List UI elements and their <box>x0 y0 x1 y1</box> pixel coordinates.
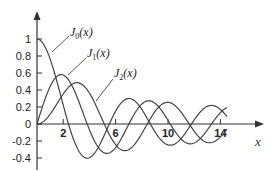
y-axis-arrow-icon <box>34 11 41 20</box>
y-tick-label: 0.2 <box>16 101 31 113</box>
y-tick-label: -0.4 <box>12 152 31 164</box>
x-tick-label: 6 <box>113 127 119 139</box>
x-tick-label: 2 <box>60 127 66 139</box>
y-tick-label: -0.2 <box>12 135 31 147</box>
x-axis-label: x <box>254 134 261 149</box>
label-j2: J2(x) <box>114 66 137 82</box>
label-j1: J1(x) <box>87 46 110 62</box>
y-tick-label: 1 <box>25 33 31 45</box>
function-labels: J0(x)J1(x)J2(x) <box>52 25 137 101</box>
x-tick-label: 10 <box>162 127 174 139</box>
y-tick-label: 0.8 <box>16 50 31 62</box>
y-tick-label: 0.4 <box>16 84 31 96</box>
curves <box>37 39 227 158</box>
leader-line-j2 <box>96 79 113 101</box>
leader-line-j0 <box>52 36 69 52</box>
bessel-chart: 10.80.60.40.20-0.2-0.4 261014 J0(x)J1(x)… <box>0 0 274 171</box>
leader-line-j1 <box>68 58 86 75</box>
x-axis-arrow-icon <box>255 121 264 128</box>
y-tick-label: 0.6 <box>16 67 31 79</box>
label-j0: J0(x) <box>70 25 93 41</box>
y-tick-label: 0 <box>25 118 31 130</box>
